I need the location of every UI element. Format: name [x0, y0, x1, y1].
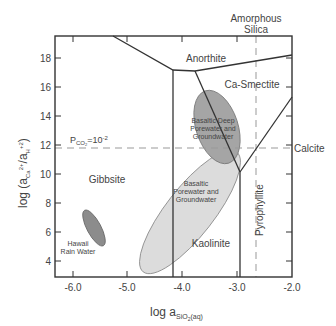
y-tick-label: 4	[45, 256, 51, 267]
basaltic-porewater-label: Porewater and	[173, 188, 219, 195]
y-tick-label: 10	[40, 169, 52, 180]
y-axis-title: log (aCa2+/aH+2)	[16, 138, 31, 208]
basaltic-deep-label: Groundwater	[193, 133, 234, 140]
region-label-anorthite: Anorthite	[186, 53, 226, 64]
amorphous-silica-label: Silica	[244, 24, 268, 35]
region-label-ca-smectite: Ca-Smectite	[224, 79, 279, 90]
y-tick-label: 8	[45, 198, 51, 209]
region-label-pyrophyllite: Pyrophyllite	[254, 184, 265, 236]
y-tick-labels: 18 16 14 12 10 8 6 4	[40, 53, 52, 267]
region-label-gibbsite: Gibbsite	[89, 174, 126, 185]
y-tick-label: 12	[40, 140, 52, 151]
x-tick-labels: -6.0 -5.0 -4.0 -3.0 -2.0	[64, 282, 301, 293]
x-tick-label: -6.0	[64, 282, 82, 293]
basaltic-porewater-field	[124, 137, 255, 286]
basaltic-porewater-label: Basaltic	[184, 180, 209, 187]
x-tick-label: -3.0	[228, 282, 246, 293]
hawaii-rain-label: Hawaii	[67, 240, 88, 247]
y-tick-label: 18	[40, 53, 52, 64]
x-tick-label: -2.0	[283, 282, 301, 293]
amorphous-silica-label: Amorphous	[230, 13, 281, 24]
stability-diagram: -6.0 -5.0 -4.0 -3.0 -2.0 18 16 14 12 10 …	[0, 0, 336, 326]
basaltic-deep-label: Basaltic Deep	[191, 117, 234, 125]
basaltic-deep-label: Porewater and	[190, 125, 236, 132]
x-axis-title: log aSiO2(aq)	[150, 305, 203, 322]
region-label-kaolinite: Kaolinite	[192, 238, 231, 249]
calcite-label: Calcite	[294, 143, 325, 154]
hawaii-rain-label: Rain Water	[61, 248, 96, 255]
basaltic-porewater-label: Groundwater	[176, 196, 217, 203]
y-tick-label: 6	[45, 227, 51, 238]
x-tick-label: -5.0	[118, 282, 136, 293]
y-tick-label: 16	[40, 82, 52, 93]
y-tick-label: 14	[40, 111, 52, 122]
x-tick-label: -4.0	[173, 282, 191, 293]
pco2-label: PCO2=10-2	[70, 135, 109, 147]
